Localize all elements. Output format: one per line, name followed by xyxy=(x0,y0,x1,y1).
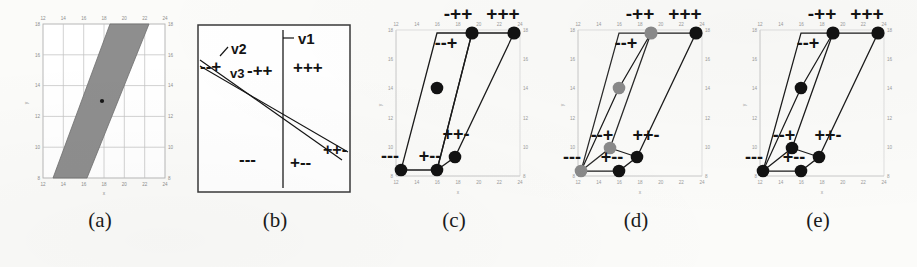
svg-text:12: 12 xyxy=(757,22,763,27)
svg-text:12: 12 xyxy=(575,22,581,27)
svg-text:22: 22 xyxy=(142,182,148,187)
svg-text:16: 16 xyxy=(705,57,711,62)
svg-text:12: 12 xyxy=(40,182,46,187)
svg-text:18: 18 xyxy=(637,22,643,27)
svg-text:10: 10 xyxy=(523,145,529,150)
svg-text:10: 10 xyxy=(168,145,174,150)
svg-text:18: 18 xyxy=(455,22,461,27)
svg-text:10: 10 xyxy=(388,145,394,150)
panel-a-xticks-bottom: 12 14 16 18 20 22 24 xyxy=(40,182,168,187)
svg-text:16: 16 xyxy=(617,180,623,185)
svg-text:10: 10 xyxy=(570,145,576,150)
sign-upper-middle: -++ xyxy=(247,61,273,80)
svg-text:8: 8 xyxy=(887,174,890,179)
svg-text:12: 12 xyxy=(575,180,581,185)
svg-text:12: 12 xyxy=(168,114,174,119)
svg-text:14: 14 xyxy=(61,16,67,21)
svg-text:12: 12 xyxy=(393,180,399,185)
panel-b-diagram: v1 v2 v3 --+ -++ +++ --- +-- ++- xyxy=(190,0,360,200)
svg-text:8: 8 xyxy=(754,174,757,179)
vertex-dot xyxy=(449,151,462,164)
sign-top-left: -++ xyxy=(626,3,655,24)
panel-d-plot: -++ +++ --+ --+ ++- --- +-- 12 14 16 18 … xyxy=(550,0,722,200)
svg-text:22: 22 xyxy=(497,22,503,27)
svg-text:10: 10 xyxy=(887,145,893,150)
svg-text:12: 12 xyxy=(35,114,41,119)
svg-text:24: 24 xyxy=(699,180,705,185)
panel-c-yticks-right: 18 16 14 12 10 8 xyxy=(523,28,529,179)
sign-top-right: +++ xyxy=(850,3,883,24)
svg-text:14: 14 xyxy=(596,22,602,27)
sign-bottom-left: --- xyxy=(745,147,763,167)
sign-upper-inner: --+ xyxy=(615,33,638,53)
vertex-dot-black xyxy=(631,151,644,164)
vertex-dots-black xyxy=(757,26,885,177)
panel-c-ylabel: y xyxy=(378,103,383,106)
svg-text:12: 12 xyxy=(388,116,394,121)
svg-text:14: 14 xyxy=(168,83,174,88)
svg-text:8: 8 xyxy=(705,174,708,179)
svg-text:16: 16 xyxy=(752,57,758,62)
vertex-dot-black xyxy=(871,26,884,39)
vertex-dot-gray xyxy=(613,82,626,95)
svg-text:18: 18 xyxy=(168,22,174,27)
svg-text:12: 12 xyxy=(705,116,711,121)
interior-point xyxy=(100,99,104,103)
svg-text:18: 18 xyxy=(101,16,107,21)
panel-e-ylabel: y xyxy=(742,103,747,106)
sign-top-right: +++ xyxy=(486,3,519,24)
svg-text:24: 24 xyxy=(162,16,168,21)
svg-text:10: 10 xyxy=(35,145,41,150)
svg-text:16: 16 xyxy=(81,182,87,187)
panel-b-svg: v1 v2 v3 --+ -++ +++ --- +-- ++- xyxy=(190,0,360,200)
caption-c: (c) xyxy=(368,208,540,233)
svg-text:22: 22 xyxy=(142,16,148,21)
svg-text:18: 18 xyxy=(637,180,643,185)
svg-text:24: 24 xyxy=(517,180,523,185)
svg-text:22: 22 xyxy=(679,22,685,27)
svg-text:20: 20 xyxy=(840,22,846,27)
svg-text:14: 14 xyxy=(35,83,41,88)
sign-lower-right: ++- xyxy=(323,141,347,158)
panel-a-svg: 12 14 16 18 20 22 24 12 14 16 18 20 22 2… xyxy=(14,0,186,200)
caption-a: (a) xyxy=(14,208,186,233)
panel-c-xlabel: x xyxy=(457,190,460,195)
panel-c-xticks-bottom: 12 14 16 18 20 22 24 xyxy=(393,180,523,185)
panel-e-plot: -++ +++ --+ --+ ++- --- +-- 12 14 16 18 … xyxy=(732,0,904,200)
panel-e: -++ +++ --+ --+ ++- --- +-- 12 14 16 18 … xyxy=(732,0,904,200)
svg-text:20: 20 xyxy=(840,180,846,185)
svg-text:22: 22 xyxy=(497,180,503,185)
sign-bottom-left: --- xyxy=(563,147,581,167)
sign-upper-left: --+ xyxy=(200,57,221,76)
panel-e-svg: -++ +++ --+ --+ ++- --- +-- 12 14 16 18 … xyxy=(732,0,904,200)
svg-text:12: 12 xyxy=(523,116,529,121)
sign-mid-right: ++- xyxy=(442,124,469,144)
panel-a-yticks-left: 18 16 14 12 10 8 xyxy=(35,22,41,181)
svg-text:18: 18 xyxy=(523,28,529,33)
svg-text:14: 14 xyxy=(570,86,576,91)
svg-text:18: 18 xyxy=(35,22,41,27)
sign-top-left: -++ xyxy=(808,3,837,24)
svg-text:16: 16 xyxy=(570,57,576,62)
svg-text:20: 20 xyxy=(658,180,664,185)
panel-c-svg: -++ +++ --+ ++- --- +-- 12 14 16 18 20 2… xyxy=(368,0,540,200)
svg-text:14: 14 xyxy=(778,22,784,27)
svg-text:16: 16 xyxy=(435,180,441,185)
svg-text:24: 24 xyxy=(881,180,887,185)
svg-text:16: 16 xyxy=(799,22,805,27)
svg-text:14: 14 xyxy=(887,86,893,91)
svg-text:18: 18 xyxy=(819,22,825,27)
svg-text:8: 8 xyxy=(523,174,526,179)
panel-b: v1 v2 v3 --+ -++ +++ --- +-- ++- (b) xyxy=(190,0,360,200)
svg-text:20: 20 xyxy=(476,180,482,185)
svg-text:14: 14 xyxy=(752,86,758,91)
vertex-dot-black xyxy=(689,26,702,39)
svg-text:8: 8 xyxy=(572,174,575,179)
panel-d: -++ +++ --+ --+ ++- --- +-- 12 14 16 18 … xyxy=(550,0,722,200)
caption-e: (e) xyxy=(732,208,904,233)
svg-text:14: 14 xyxy=(388,86,394,91)
svg-text:12: 12 xyxy=(570,116,576,121)
svg-text:18: 18 xyxy=(819,180,825,185)
svg-text:18: 18 xyxy=(101,182,107,187)
svg-text:14: 14 xyxy=(596,180,602,185)
